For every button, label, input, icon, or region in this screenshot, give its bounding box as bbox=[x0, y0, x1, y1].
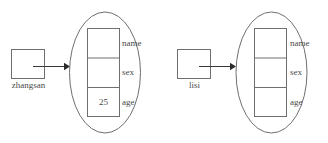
field-label-lisi-age: age bbox=[290, 97, 303, 107]
object-table-lisi[interactable] bbox=[255, 29, 287, 117]
arrow-head-lisi bbox=[230, 63, 236, 70]
field-value-zhangsan-age: 25 bbox=[88, 97, 119, 107]
variable-box-zhangsan[interactable] bbox=[12, 50, 45, 79]
object-reference-diagram: zhangsan name sex age 25 lisi name sex a… bbox=[0, 0, 328, 143]
variable-label-zhangsan: zhangsan bbox=[0, 80, 57, 90]
field-label-zhangsan-name: name bbox=[122, 38, 142, 48]
diagram-canvas bbox=[0, 0, 328, 143]
field-label-lisi-name: name bbox=[290, 38, 310, 48]
field-label-zhangsan-age: age bbox=[122, 97, 135, 107]
variable-box-lisi[interactable] bbox=[178, 50, 211, 79]
field-label-zhangsan-sex: sex bbox=[122, 67, 134, 77]
field-label-lisi-sex: sex bbox=[290, 67, 302, 77]
variable-label-lisi: lisi bbox=[166, 80, 223, 90]
